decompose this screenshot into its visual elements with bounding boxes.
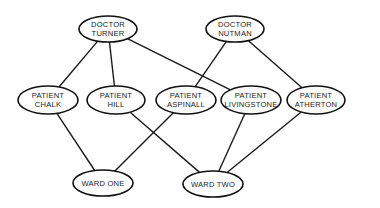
node-label: WARD TWO [191,180,235,189]
node-turner: DOCTORTURNER [79,16,137,42]
node-label: WARD ONE [81,179,124,188]
node-label: PATIENT [300,91,332,100]
node-livingstone: PATIENTLIVINGSTONE [221,86,281,114]
node-label: PATIENT [170,91,202,100]
node-label: ATHERTON [295,100,338,109]
node-chalk: PATIENTCHALK [18,86,78,114]
hospital-relationship-diagram: DOCTORTURNERDOCTORNUTMANPATIENTCHALKPATI… [0,0,380,208]
node-label: PATIENT [235,91,267,100]
node-label: TURNER [92,29,125,38]
node-hill: PATIENTHILL [87,86,145,114]
nodes-layer: DOCTORTURNERDOCTORNUTMANPATIENTCHALKPATI… [18,16,345,197]
edge-chalk-wardone [57,113,95,170]
node-label: PATIENT [32,91,64,100]
node-label: ASPINALL [167,100,205,109]
edge-turner-chalk [59,41,98,87]
node-label: HILL [108,100,125,109]
node-atherton: PATIENTATHERTON [287,86,345,114]
edge-atherton-wardtwo [227,112,301,172]
edge-turner-hill [109,42,114,86]
node-label: DOCTOR [218,20,252,29]
node-nutman: DOCTORNUTMAN [206,16,264,42]
node-label: NUTMAN [218,29,252,38]
node-wardtwo: WARD TWO [183,171,243,197]
node-label: DOCTOR [91,20,125,29]
node-label: CHALK [35,100,61,109]
node-label: PATIENT [100,91,132,100]
node-aspinall: PATIENTASPINALL [156,86,216,114]
edge-livingstone-wardtwo [219,114,245,172]
node-label: LIVINGSTONE [224,100,277,109]
node-wardone: WARD ONE [73,170,133,196]
edge-turner-livingstone [127,39,230,90]
edge-nutman-atherton [248,41,302,88]
